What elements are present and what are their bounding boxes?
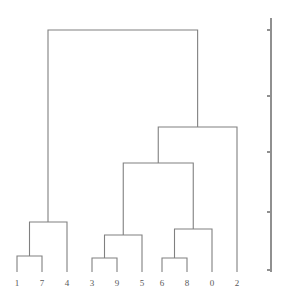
- leaf-label-6: 6: [154, 278, 170, 288]
- dendrogram-plot: [0, 0, 290, 296]
- dendrogram-link: [175, 229, 213, 272]
- leaf-label-4: 4: [59, 278, 75, 288]
- link-bracket: [175, 229, 213, 272]
- dendrogram-figure: 1743956802: [0, 0, 290, 296]
- link-bracket: [162, 258, 187, 272]
- leaf-label-0: 0: [204, 278, 220, 288]
- link-bracket: [123, 163, 193, 235]
- dendrogram-links-group: [17, 30, 237, 272]
- leaf-label-9: 9: [109, 278, 125, 288]
- value-axis: [267, 18, 271, 272]
- dendrogram-link: [123, 163, 193, 235]
- leaf-label-5: 5: [134, 278, 150, 288]
- link-bracket: [105, 235, 143, 272]
- dendrogram-link: [162, 258, 187, 272]
- leaf-label-7: 7: [34, 278, 50, 288]
- link-bracket: [92, 258, 117, 272]
- link-bracket: [158, 127, 237, 272]
- link-bracket: [17, 256, 42, 272]
- dendrogram-link: [17, 256, 42, 272]
- dendrogram-link: [105, 235, 143, 272]
- leaf-label-1: 1: [9, 278, 25, 288]
- leaf-label-3: 3: [84, 278, 100, 288]
- link-bracket: [30, 222, 68, 272]
- dendrogram-link: [158, 127, 237, 272]
- dendrogram-link: [92, 258, 117, 272]
- leaf-label-8: 8: [179, 278, 195, 288]
- leaf-label-2: 2: [229, 278, 245, 288]
- dendrogram-link: [30, 222, 68, 272]
